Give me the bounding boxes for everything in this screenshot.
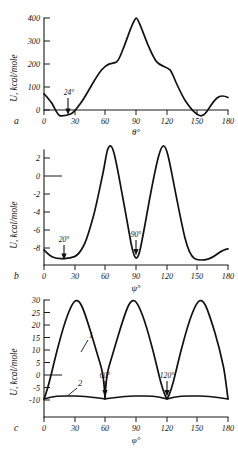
panel-c-ytick-m10: -10 — [29, 396, 40, 405]
panel-b-xtick-30: 30 — [70, 272, 79, 281]
panel-c-curve-1-id: 1 — [89, 331, 93, 340]
panel-c-ytick-30: 30 — [31, 296, 40, 305]
panel-c-ytick-m5: -5 — [33, 384, 40, 393]
panel-a-y-ticks: 0 100 200 300 400 — [27, 14, 50, 115]
panel-c-ytick-20: 20 — [32, 321, 40, 330]
panel-c-x-ticks: 0 30 60 90 120 150 180 — [42, 417, 234, 433]
panel-c-curve-label-1: 1 — [81, 331, 93, 352]
panel-c-curve-2-id: 2 — [78, 379, 82, 388]
panel-b-x-ticks: 0 30 60 90 120 150 180 — [42, 265, 234, 281]
panel-a-xtick-150: 150 — [191, 117, 203, 126]
panel-c-xtick-90: 90 — [132, 424, 140, 433]
panel-a-ytick-0: 0 — [36, 106, 40, 115]
panel-c-letter: c — [14, 422, 19, 433]
panel-c-ytick-0: 0 — [36, 371, 40, 380]
panel-a-ytick-400: 400 — [28, 14, 40, 23]
panel-a-xtick-180: 180 — [222, 117, 234, 126]
panel-c-ytick-10: 10 — [32, 346, 40, 355]
panel-b-xtick-0: 0 — [42, 272, 46, 281]
panel-c-annotation-60deg: 60° — [100, 371, 111, 397]
panel-c-ytick-25: 25 — [32, 309, 40, 318]
panel-b-ytick-m2: -2 — [33, 190, 40, 199]
panel-a-annotation-label: 24° — [64, 88, 75, 97]
panel-b-annotation-20deg: 20° — [59, 235, 70, 260]
panel-b-letter: b — [14, 270, 19, 281]
panel-c-xtick-0: 0 — [42, 424, 46, 433]
panel-a-x-title: θ° — [132, 127, 140, 137]
panel-a-xtick-30: 30 — [70, 117, 79, 126]
panel-c-xtick-60: 60 — [101, 424, 109, 433]
panel-c-xtick-120: 120 — [161, 424, 173, 433]
panel-a-xtick-120: 120 — [161, 117, 173, 126]
panel-c-annotation-120-label: 120° — [160, 371, 174, 380]
panel-a-curve — [44, 18, 228, 116]
panel-c-xtick-180: 180 — [222, 424, 234, 433]
panel-a-ytick-300: 300 — [27, 37, 40, 46]
panel-a-ytick-200: 200 — [28, 60, 40, 69]
panel-b-ytick-m6: -6 — [33, 226, 41, 235]
panel-c-ytick-15: 15 — [32, 334, 40, 343]
panel-b-annotation-20-label: 20° — [59, 235, 70, 244]
arrow-down-icon — [102, 390, 107, 397]
panel-b-xtick-150: 150 — [191, 272, 203, 281]
panel-c-annotation-60-label: 60° — [100, 371, 111, 380]
panel-b: U, kcal/mole 2 0 -2 -4 -6 -8 0 — [9, 146, 234, 293]
panel-a-xtick-0: 0 — [42, 117, 46, 126]
panel-b-xtick-120: 120 — [161, 272, 173, 281]
panel-c-curve-2 — [44, 396, 228, 399]
panel-c-curve-label-2: 2 — [68, 379, 82, 396]
panel-b-x-title: ψ° — [131, 283, 141, 293]
panel-c-ytick-5: 5 — [36, 359, 40, 368]
panel-b-ytick-m4: -4 — [33, 208, 40, 217]
panel-b-y-ticks: 2 0 -2 -4 -6 -8 — [33, 154, 62, 253]
panel-a: U, kcal/mole 0 100 200 300 400 0 — [9, 14, 234, 137]
panel-b-ytick-0: 0 — [36, 172, 40, 181]
panel-c-y-title: U, kcal/mole — [9, 348, 19, 396]
panel-c-xtick-30: 30 — [70, 424, 79, 433]
panel-b-xtick-90: 90 — [132, 272, 140, 281]
panel-a-ytick-100: 100 — [28, 83, 40, 92]
panel-b-xtick-60: 60 — [101, 272, 109, 281]
panel-b-y-title: U, kcal/mole — [9, 201, 19, 249]
panel-b-ytick-2: 2 — [36, 154, 40, 163]
panel-c: U, kcal/mole 30 25 20 15 10 5 0 -5 -10 — [9, 296, 234, 445]
panel-b-annotation-90-label: 90° — [131, 230, 142, 239]
panel-a-xtick-90: 90 — [132, 117, 140, 126]
panel-a-letter: a — [14, 115, 19, 126]
figure-root: U, kcal/mole 0 100 200 300 400 0 — [0, 0, 238, 457]
panel-a-xtick-60: 60 — [101, 117, 109, 126]
panel-c-xtick-150: 150 — [191, 424, 203, 433]
panel-b-ytick-m8: -8 — [33, 244, 40, 253]
panel-c-x-title: φ° — [132, 435, 141, 445]
panel-a-y-title: U, kcal/mole — [9, 54, 19, 102]
panel-a-annotation-24deg: 24° — [64, 88, 75, 115]
panel-b-xtick-180: 180 — [222, 272, 234, 281]
panel-c-curve-1 — [44, 301, 228, 399]
